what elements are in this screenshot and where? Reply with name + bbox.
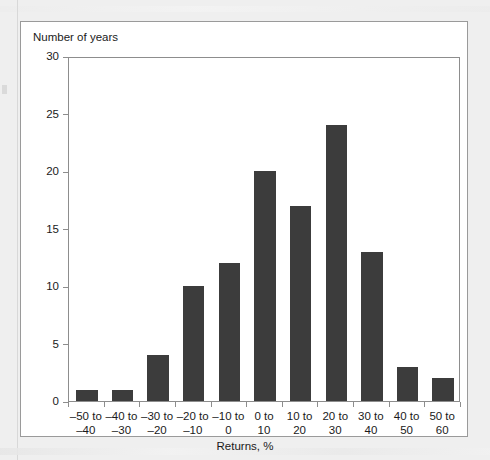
- y-axis-tick: [63, 114, 68, 115]
- x-axis-tick: [139, 402, 140, 407]
- figure-container: Number of years –50 to–40–40 to–30–30 to…: [20, 21, 468, 437]
- x-axis-tick: [68, 402, 69, 407]
- histogram-bar: [432, 378, 453, 401]
- x-axis-title: Returns, %: [21, 440, 469, 452]
- y-axis-tick-label: 10: [21, 280, 59, 292]
- x-axis-tick: [460, 402, 461, 407]
- x-axis-tick: [246, 402, 247, 407]
- histogram-bar: [183, 286, 204, 401]
- plot-area: [68, 57, 460, 402]
- x-axis-tick: [175, 402, 176, 407]
- scan-artifact-left-line: [17, 0, 18, 460]
- y-axis-tick: [63, 172, 68, 173]
- histogram-bar: [290, 206, 311, 402]
- y-axis-title: Number of years: [33, 31, 118, 43]
- x-axis-tick: [211, 402, 212, 407]
- x-axis-tick: [389, 402, 390, 407]
- histogram-bar: [112, 390, 133, 402]
- histogram-bar: [361, 252, 382, 402]
- y-axis-tick-label: 15: [21, 223, 59, 235]
- x-axis-tick-label: 50 to60: [418, 410, 466, 437]
- x-axis-tick: [104, 402, 105, 407]
- y-axis-tick: [63, 287, 68, 288]
- y-axis-tick-label: 25: [21, 108, 59, 120]
- y-axis-tick: [63, 229, 68, 230]
- histogram-bar: [76, 390, 97, 402]
- y-axis-tick: [63, 402, 68, 403]
- histogram-bars: [69, 58, 459, 401]
- x-axis-tick: [353, 402, 354, 407]
- x-axis-tick: [424, 402, 425, 407]
- histogram-bar: [397, 367, 418, 402]
- scan-artifact-top: [0, 6, 490, 12]
- x-axis-tick: [282, 402, 283, 407]
- scan-artifact-smudge: [2, 85, 7, 94]
- histogram-bar: [147, 355, 168, 401]
- y-axis-tick: [63, 344, 68, 345]
- histogram-bar: [219, 263, 240, 401]
- y-axis-tick-label: 0: [21, 395, 59, 407]
- histogram-bar: [326, 125, 347, 401]
- y-axis-tick: [63, 57, 68, 58]
- y-axis-tick-label: 30: [21, 50, 59, 62]
- x-axis-tick: [317, 402, 318, 407]
- y-axis-tick-label: 20: [21, 165, 59, 177]
- y-axis-tick-label: 5: [21, 338, 59, 350]
- histogram-bar: [254, 171, 275, 401]
